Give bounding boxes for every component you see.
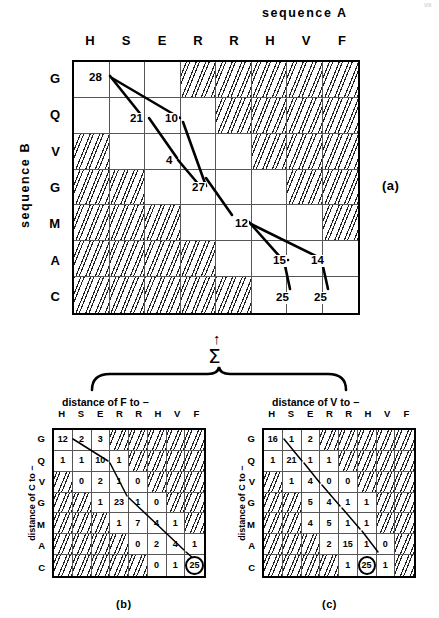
panel-a-cell-r2-c4 <box>216 134 252 170</box>
panel-b-value-r6-c5: 0 <box>154 561 159 570</box>
panel-a-col-header-0: H <box>72 33 108 53</box>
panel-b-row-header-1: Q <box>30 449 48 470</box>
panel-a-row-header-6: C <box>34 279 64 315</box>
panel-c-row-header-0: G <box>240 428 258 449</box>
panel-c-value-r5-c6: 0 <box>383 540 388 549</box>
panel-a-cell-r4-c1 <box>110 205 146 241</box>
panel-b-value-r2-c1: 0 <box>79 477 84 486</box>
panel-a-col-header-5: H <box>252 33 288 53</box>
panel-a-row-header-3: G <box>34 169 64 205</box>
panel-c-value-r6-c6: 1 <box>383 561 388 570</box>
panel-c-value-r2-c4: 0 <box>345 477 350 486</box>
panel-b-value-r5-c7: 1 <box>192 540 197 549</box>
panel-c-value-r4-c4: 1 <box>345 519 350 528</box>
panel-b-value-r1-c3: 1 <box>117 456 122 465</box>
panel-a-row-header-2: V <box>34 133 64 169</box>
panel-a-path-label-8: 25 <box>275 292 290 304</box>
panel-b-value-r2-c3: 1 <box>117 477 122 486</box>
panel-b-value-r4-c4: 7 <box>135 519 140 528</box>
panel-b-value-r6-c7: 25 <box>185 556 204 575</box>
panel-a-cell-r2-c3 <box>181 134 217 170</box>
panel-c-value-r6-c4: 1 <box>345 561 350 570</box>
panel-c-value-r1-c2: 1 <box>308 456 313 465</box>
panel-a-cell-r2-c7 <box>323 134 359 170</box>
panel-c-value-r1-c1: 21 <box>287 456 297 465</box>
panel-c-value-r3-c4: 1 <box>345 498 350 507</box>
panel-c-value-r0-c1: 1 <box>289 435 294 444</box>
panel-c-value-r2-c2: 4 <box>308 477 313 486</box>
panel-b-value-r3-c5: 0 <box>154 498 159 507</box>
panel-a-col-header-4: R <box>216 33 252 53</box>
panel-b-col-header-6: V <box>168 408 187 424</box>
panel-a-cell-r4-c3 <box>181 205 217 241</box>
panel-b-col-header-0: H <box>52 408 71 424</box>
panel-b-col-header-5: H <box>148 408 167 424</box>
panel-a-cell-r3-c6 <box>287 170 323 206</box>
panel-b-value-r4-c6: 1 <box>173 519 178 528</box>
panel-a-cell-r6-c1 <box>110 277 146 313</box>
panel-a-cell-r5-c0 <box>74 241 110 277</box>
panel-a-cell-r5-c1 <box>110 241 146 277</box>
panel-b-value-r2-c4: 0 <box>135 477 140 486</box>
panel-a-cell-r5-c3 <box>181 241 217 277</box>
panel-a-cell-r6-c2 <box>145 277 181 313</box>
panel-a-cell-r0-c3 <box>181 62 217 98</box>
panel-a-row-header-0: G <box>34 60 64 96</box>
panel-a-row-headers: GQVGMAC <box>34 60 64 315</box>
panel-b-value-r4-c3: 1 <box>117 519 122 528</box>
panel-c-col-header-6: V <box>378 408 397 424</box>
panel-b-column-headers: HSERRHVF <box>52 408 206 424</box>
panel-a-cell-r2-c5 <box>252 134 288 170</box>
panel-b-value-r3-c4: 1 <box>135 498 140 507</box>
panel-a-path-label-9: 25 <box>313 292 328 304</box>
panel-c-col-header-5: H <box>358 408 377 424</box>
panel-c-value-r3-c2: 5 <box>308 498 313 507</box>
panel-a-cell-r0-c5 <box>252 62 288 98</box>
panel-c-value-r1-c0: 1 <box>270 456 275 465</box>
panel-a-path-label-7: 14 <box>310 255 325 267</box>
panel-b-value-r3-c3: 23 <box>114 498 124 507</box>
panel-a-col-header-3: R <box>180 33 216 53</box>
panel-a-cell-r0-c1 <box>110 62 146 98</box>
panel-c-value-r3-c5: 1 <box>364 498 369 507</box>
summation-brace <box>88 366 352 392</box>
panel-a-cell-r4-c7 <box>323 205 359 241</box>
panel-b-value-r6-c6: 1 <box>173 561 178 570</box>
panel-a-cell-r6-c0 <box>74 277 110 313</box>
panel-c-value-r3-c3: 4 <box>327 498 332 507</box>
panel-c-column-headers: HSERRHVF <box>262 408 416 424</box>
panel-c-col-header-3: R <box>320 408 339 424</box>
panel-a-path-label-5: 12 <box>234 218 249 230</box>
panel-a-cell-r1-c6 <box>287 98 323 134</box>
panel-b-value-r5-c5: 2 <box>154 540 159 549</box>
panel-c-value-r1-c3: 1 <box>327 456 332 465</box>
panel-c-value-r5-c3: 2 <box>327 540 332 549</box>
panel-b-value-r0-c2: 3 <box>98 435 103 444</box>
panel-a-row-header-1: Q <box>34 96 64 132</box>
panel-c-value-r5-c4: 15 <box>343 540 353 549</box>
panel-a-cell-r3-c7 <box>323 170 359 206</box>
panel-a-cell-r0-c4 <box>216 62 252 98</box>
panel-a-cell-r3-c0 <box>74 170 110 206</box>
panel-c-row-header-3: G <box>240 492 258 513</box>
panel-b-col-header-4: R <box>129 408 148 424</box>
panel-b-value-r2-c2: 2 <box>98 477 103 486</box>
panel-a-cell-r2-c1 <box>110 134 146 170</box>
panel-c-col-header-1: S <box>281 408 300 424</box>
sigma-symbol: Σ <box>208 344 221 368</box>
panel-c-value-r4-c5: 1 <box>364 519 369 528</box>
panel-a-path-label-2: 10 <box>164 113 179 125</box>
panel-a-cell-r0-c7 <box>323 62 359 98</box>
panel-a-path-label-4: 27 <box>191 182 206 194</box>
sequence-a-title: sequence A <box>262 6 348 20</box>
panel-b-col-header-2: E <box>91 408 110 424</box>
panel-b-value-r0-c1: 2 <box>79 435 84 444</box>
panel-c-row-header-6: C <box>240 557 258 578</box>
panel-a-cell-r3-c2 <box>145 170 181 206</box>
panel-a-cell-r1-c0 <box>74 98 110 134</box>
panel-c-tag: (c) <box>322 598 337 610</box>
panel-c-value-r0-c2: 2 <box>308 435 313 444</box>
panel-c-col-header-0: H <box>262 408 281 424</box>
panel-b-value-r5-c4: 0 <box>135 540 140 549</box>
panel-a-cell-r4-c2 <box>145 205 181 241</box>
